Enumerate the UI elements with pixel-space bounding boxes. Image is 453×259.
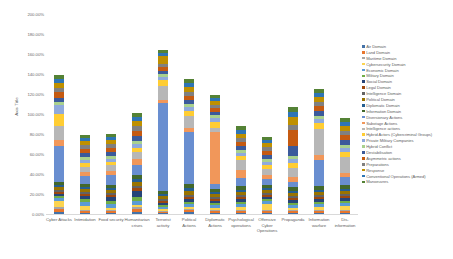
legend-color-swatch (362, 110, 365, 113)
legend-item[interactable]: Maritime Domain (362, 56, 453, 61)
x-axis-label: Diplomatic Actions (202, 217, 228, 228)
bar-segment[interactable] (158, 86, 168, 100)
bar-segment[interactable] (288, 168, 298, 177)
legend-item[interactable]: Diplomatic Domain (362, 103, 453, 108)
bar-segment[interactable] (236, 178, 246, 186)
legend-item[interactable]: Response (362, 168, 453, 173)
legend-color-swatch (362, 63, 365, 66)
legend-item[interactable]: Sabotage Actions (362, 121, 453, 126)
bar-stack[interactable] (340, 118, 350, 214)
legend-item[interactable]: Cybersecurity Domain (362, 62, 453, 67)
legend-label: Conventional Operations (Armed) (366, 174, 425, 179)
y-axis-tick-label: 100.00% (27, 112, 44, 117)
bar-segment[interactable] (54, 126, 64, 140)
legend-item[interactable]: Social Domain (362, 79, 453, 84)
x-axis-label: Terrorist activity (150, 217, 176, 228)
bar-segment[interactable] (132, 152, 142, 159)
x-axis-label: Food security (98, 217, 124, 223)
bar-segment[interactable] (132, 165, 142, 175)
legend-label: Economic Domain (366, 68, 398, 73)
legend-item[interactable]: Intelligence actions (362, 126, 453, 131)
bar-stack[interactable] (184, 79, 194, 214)
bar-segment[interactable] (288, 130, 298, 146)
legend-item[interactable]: Diversionary Actions (362, 115, 453, 120)
stacked-bar-chart: Axis Title 0.00%20.00%40.00%60.00%80.00%… (0, 0, 453, 259)
legend-item[interactable]: Hybrid Conflict (362, 144, 453, 149)
bar-segment[interactable] (80, 176, 90, 184)
bar-segment[interactable] (340, 157, 350, 173)
y-axis-tick-labels: 0.00%20.00%40.00%60.00%80.00%100.00%120.… (14, 0, 44, 220)
legend-item[interactable]: Manoeuvres (362, 179, 453, 184)
y-axis-tick-label: 120.00% (27, 92, 44, 97)
bar-segment[interactable] (236, 170, 246, 178)
bar-stack[interactable] (106, 134, 116, 214)
bar-segment[interactable] (288, 117, 298, 125)
legend-label: Intelligence Domain (366, 91, 401, 96)
bar-stack[interactable] (262, 137, 272, 214)
legend-item[interactable]: Air Domain (362, 44, 453, 49)
bar-segment[interactable] (210, 132, 220, 184)
legend-label: Response (366, 168, 384, 173)
legend-label: Military Domain (366, 73, 393, 78)
legend-item[interactable]: Information Domain (362, 109, 453, 114)
legend-color-swatch (362, 122, 365, 125)
legend-item[interactable]: Economic Domain (362, 68, 453, 73)
y-axis-tick-label: 180.00% (27, 32, 44, 37)
bar-segment[interactable] (314, 160, 324, 186)
y-axis-tick-label: 140.00% (27, 72, 44, 77)
bar-stack[interactable] (158, 50, 168, 214)
legend-item[interactable]: Asymmetric actions (362, 156, 453, 161)
bar-segment[interactable] (184, 116, 194, 128)
legend-label: Hybrid Actors (Cybercriminal Groups) (366, 132, 432, 137)
legend-item[interactable]: Destabilisation (362, 150, 453, 155)
x-axis-line (46, 214, 358, 215)
bar-segment[interactable] (236, 160, 246, 170)
legend-label: Cybersecurity Domain (366, 62, 405, 67)
x-axis-category-labels: Cyber AttacksIntimidationFood securityHu… (46, 217, 358, 257)
bar-stack[interactable] (288, 107, 298, 214)
legend-item[interactable]: Conventional Operations (Armed) (362, 174, 453, 179)
bar-segment[interactable] (158, 103, 168, 191)
legend-color-swatch (362, 151, 365, 154)
bar-segment[interactable] (106, 175, 116, 185)
bar-segment[interactable] (54, 105, 64, 114)
legend-color-swatch (362, 92, 365, 95)
legend-item[interactable]: Private Military Companies (362, 138, 453, 143)
legend-item[interactable]: Political Domain (362, 97, 453, 102)
bar-segment[interactable] (340, 177, 350, 185)
legend-color-swatch (362, 116, 365, 119)
legend-color-swatch (362, 175, 365, 178)
legend-item[interactable]: Intelligence Domain (362, 91, 453, 96)
x-axis-label: Intimidation (72, 217, 98, 223)
bar-stack[interactable] (80, 135, 90, 214)
bar-segment[interactable] (184, 132, 194, 184)
legend-label: Land Domain (366, 50, 390, 55)
chart-legend: Air DomainLand DomainMaritime DomainCybe… (362, 44, 453, 185)
legend-color-swatch (362, 157, 365, 160)
legend-item[interactable]: Hybrid Actors (Cybercriminal Groups) (362, 132, 453, 137)
x-axis-label: Political Actions (176, 217, 202, 228)
legend-item[interactable]: Legal Domain (362, 85, 453, 90)
legend-item[interactable]: Military Domain (362, 73, 453, 78)
bar-segment[interactable] (288, 146, 298, 156)
bar-stack[interactable] (236, 126, 246, 214)
legend-item[interactable]: Land Domain (362, 50, 453, 55)
legend-color-swatch (362, 145, 365, 148)
legend-item[interactable]: Preparations (362, 162, 453, 167)
bar-segment[interactable] (54, 146, 64, 182)
bar-segment[interactable] (158, 56, 168, 64)
bar-segment[interactable] (54, 114, 64, 126)
bar-stack[interactable] (54, 75, 64, 214)
bar-stack[interactable] (210, 95, 220, 214)
legend-label: Diversionary Actions (366, 115, 402, 120)
legend-color-swatch (362, 86, 365, 89)
bar-stack[interactable] (132, 113, 142, 214)
bar-segment[interactable] (314, 129, 324, 155)
bar-stack[interactable] (314, 89, 324, 214)
legend-label: Asymmetric actions (366, 156, 401, 161)
x-axis-label: Dis-information (332, 217, 358, 228)
legend-color-swatch (362, 104, 365, 107)
legend-label: Air Domain (366, 44, 386, 49)
legend-color-swatch (362, 128, 365, 131)
legend-color-swatch (362, 181, 365, 184)
